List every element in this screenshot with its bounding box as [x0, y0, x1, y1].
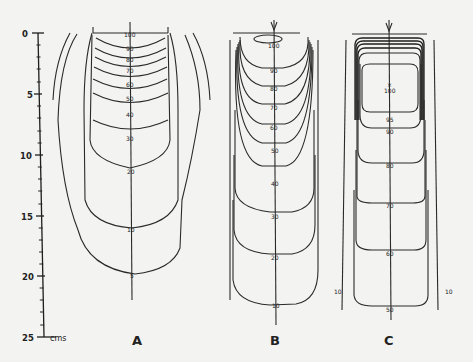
scale-tick-20: 20: [22, 272, 34, 282]
a-iso-50: 50: [126, 95, 134, 102]
b-iso-50: 50: [271, 147, 279, 154]
b-iso-70: 70: [270, 104, 278, 111]
panel-label-a: A: [132, 333, 142, 348]
a-iso-70: 70: [126, 67, 134, 74]
scale-tick-15: 15: [21, 212, 33, 222]
scale-tick-10: 10: [20, 151, 32, 161]
depth-scale: 0 5 10 15 20 25 cms: [20, 29, 66, 343]
isodose-figure: 0 5 10 15 20 25 cms 100 90 80 70 60 5: [0, 0, 473, 362]
panel-b-isodose: 100 90 80 70 60 50 40 30 20 10 B: [230, 20, 318, 348]
b-iso-60: 60: [270, 124, 278, 131]
figure-svg: 0 5 10 15 20 25 cms 100 90 80 70 60 5: [0, 0, 473, 362]
b-iso-40: 40: [271, 180, 279, 187]
b-iso-100: 100: [268, 42, 280, 49]
c-side-right: 10: [445, 288, 453, 295]
c-side-left: 10: [334, 288, 342, 295]
b-iso-20: 20: [271, 254, 279, 261]
a-iso-5: 5: [130, 272, 134, 279]
b-iso-90: 90: [270, 67, 278, 74]
a-iso-20: 20: [127, 168, 135, 175]
c-iso-100: 100: [384, 87, 396, 94]
panel-a-isodose: 100 90 80 70 60 50 40 30 20 10 5 A: [53, 22, 210, 348]
c-iso-95: 95: [386, 116, 394, 123]
c-iso-70: 70: [386, 202, 394, 209]
b-iso-10: 10: [272, 302, 280, 309]
a-iso-40: 40: [126, 111, 134, 118]
a-iso-80: 80: [126, 56, 134, 63]
c-iso-50: 50: [386, 306, 394, 313]
a-iso-100: 100: [124, 31, 136, 38]
scale-tick-5: 5: [27, 90, 33, 100]
a-iso-10: 10: [127, 226, 135, 233]
c-iso-60: 60: [386, 250, 394, 257]
panel-label-c: C: [384, 333, 394, 348]
scale-unit: cms: [50, 334, 66, 343]
b-iso-80: 80: [270, 85, 278, 92]
c-iso-80: 80: [386, 162, 394, 169]
a-iso-90: 90: [126, 45, 134, 52]
scale-tick-25: 25: [22, 333, 34, 343]
b-iso-30: 30: [271, 213, 279, 220]
c-iso-90: 90: [386, 128, 394, 135]
a-iso-30: 30: [126, 135, 134, 142]
panel-c-isodose: × 100 95 90 80 70 60 50 10 10 C: [334, 20, 453, 348]
scale-tick-0: 0: [22, 29, 28, 39]
a-iso-60: 60: [126, 81, 134, 88]
panel-label-b: B: [270, 333, 280, 348]
